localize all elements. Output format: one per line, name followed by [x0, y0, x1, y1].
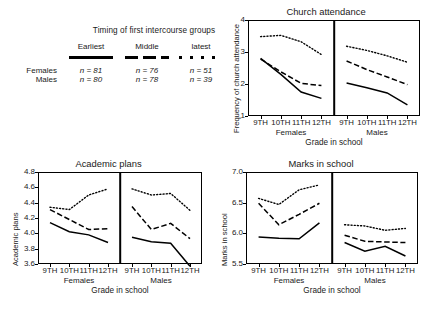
legend-swatch-earliest [62, 52, 120, 63]
legend-n-females-middle: n = 76 [120, 66, 174, 75]
legend-n-males-middle: n = 78 [120, 75, 174, 84]
legend-swatch-middle [120, 52, 174, 63]
series-line-middle [132, 207, 190, 239]
series-line-earliest [347, 83, 408, 105]
legend-header-earliest: Earliest [62, 42, 120, 52]
series-line-earliest [345, 243, 406, 257]
y-tick-label: 4.0 [24, 229, 35, 237]
legend-n-males-latest: n = 39 [174, 75, 228, 84]
legend-n-females-earliest: n = 81 [62, 66, 120, 75]
y-tick-label: 4.8 [24, 168, 35, 176]
series-line-latest [347, 46, 408, 62]
y-tick-label: 4.4 [24, 199, 35, 207]
legend-swatch-latest [174, 52, 228, 63]
legend-row-label-males: Males [16, 75, 62, 84]
y-tick-label: 7.0 [232, 168, 243, 176]
legend-header-latest: latest [174, 42, 228, 52]
y-tick-label: 3.8 [24, 245, 35, 253]
x-axis-title: Grade in school [305, 138, 362, 147]
series-line-latest [345, 225, 406, 231]
y-tick-label: 4.6 [24, 183, 35, 191]
y-tick-label: 6.0 [232, 229, 243, 237]
y-axis-title: Marks in school [220, 213, 229, 266]
chart-title: Academic plans [6, 158, 211, 169]
series-line-earliest [132, 237, 190, 266]
series-line-middle [347, 61, 408, 85]
legend-n-females-latest: n = 51 [174, 66, 228, 75]
legend-header-middle: Middle [120, 42, 174, 52]
y-tick-label: 5.5 [232, 260, 243, 268]
series-line-latest [132, 189, 190, 210]
chart-marks-in-school: Marks in school Marks in school 5.56.06.… [216, 158, 426, 314]
chart-church-attendance: Church attendance Frequency of church at… [226, 6, 426, 151]
chart-title: Marks in school [216, 158, 426, 169]
chart-academic-plans: Academic plans Academic plans 3.63.84.04… [6, 158, 211, 314]
x-axis-title: Grade in school [91, 286, 148, 295]
chart-title: Church attendance [226, 6, 426, 17]
y-axis-title: Academic plans [11, 212, 20, 266]
plot-area: 12349TH10TH11TH12THFemales9TH10TH11TH12T… [248, 20, 420, 116]
y-tick-label: 4.2 [24, 214, 35, 222]
series-layer [248, 20, 430, 170]
plot-area: 3.63.84.04.24.44.64.89TH10TH11TH12THFema… [38, 172, 202, 264]
series-layer [246, 172, 430, 319]
legend-block: Timing of first intercourse groups Earli… [16, 26, 228, 84]
legend-n-males-earliest: n = 80 [62, 75, 120, 84]
legend-title: Timing of first intercourse groups [80, 26, 228, 35]
series-line-middle [345, 235, 406, 242]
y-tick-label: 6.5 [232, 199, 243, 207]
plot-area: 5.56.06.57.09TH10TH11TH12THFemales9TH10T… [246, 172, 418, 264]
legend-grid: Earliest Middle latest Females n = 81 n … [16, 42, 228, 84]
y-tick-label: 3.6 [24, 260, 35, 268]
x-axis-title: Grade in school [303, 286, 360, 295]
legend-row-label-females: Females [16, 66, 62, 75]
